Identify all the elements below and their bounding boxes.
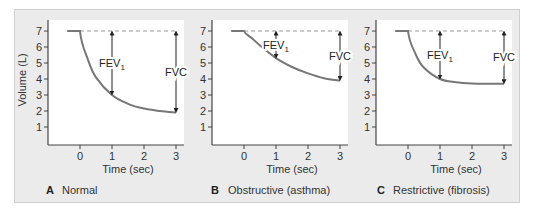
y-tick-label: 4 <box>364 73 370 85</box>
x-tick-label: 3 <box>173 150 179 162</box>
x-tick-label: 3 <box>501 150 507 162</box>
panel-c: 12345670123FEV1FVC Time (sec) C Restrict… <box>364 20 515 196</box>
y-tick-label: 3 <box>364 89 370 101</box>
x-tick-label: 2 <box>469 150 475 162</box>
y-tick-label: 6 <box>36 41 42 53</box>
y-tick-label: 2 <box>200 105 206 117</box>
panel-caption: Normal <box>62 184 97 196</box>
panel-b: 12345670123FEV1FVC Time (sec) B Obstruct… <box>200 20 351 196</box>
panel-letter: C <box>377 184 385 196</box>
y-axis-title: Volume (L) <box>16 53 28 106</box>
y-tick-label: 5 <box>200 57 206 69</box>
x-tick-label: 2 <box>305 150 311 162</box>
x-axis-title: Time (sec) <box>266 163 318 175</box>
x-tick-label: 1 <box>273 150 279 162</box>
y-tick-label: 6 <box>364 41 370 53</box>
panel-caption: Restrictive (fibrosis) <box>393 184 490 196</box>
x-tick-label: 0 <box>241 150 247 162</box>
y-tick-label: 4 <box>36 73 42 85</box>
y-tick-label: 1 <box>200 121 206 133</box>
y-tick-label: 1 <box>364 121 370 133</box>
x-tick-label: 0 <box>405 150 411 162</box>
plot-area <box>48 20 184 145</box>
panel-letter: A <box>46 184 54 196</box>
panel-caption: Obstructive (asthma) <box>228 184 330 196</box>
x-tick-label: 1 <box>437 150 443 162</box>
y-tick-label: 5 <box>36 57 42 69</box>
y-tick-label: 2 <box>36 105 42 117</box>
y-tick-label: 4 <box>200 73 206 85</box>
x-axis-title: Time (sec) <box>430 163 482 175</box>
y-tick-label: 6 <box>200 41 206 53</box>
y-tick-label: 7 <box>200 25 206 37</box>
y-tick-label: 1 <box>36 121 42 133</box>
y-tick-label: 3 <box>36 89 42 101</box>
x-tick-label: 3 <box>337 150 343 162</box>
fvc-label: FVC <box>493 51 515 63</box>
x-tick-label: 1 <box>109 150 115 162</box>
y-tick-label: 7 <box>364 25 370 37</box>
y-tick-label: 5 <box>364 57 370 69</box>
fvc-label: FVC <box>329 50 351 62</box>
panel-a: 12345670123FEV1FVC Volume (L) Time (sec)… <box>16 20 187 196</box>
y-tick-label: 7 <box>36 25 42 37</box>
plot-area <box>376 20 512 145</box>
y-tick-label: 2 <box>364 105 370 117</box>
fvc-label: FVC <box>165 66 187 78</box>
spirometry-figure: 12345670123FEV1FVC Volume (L) Time (sec)… <box>0 0 533 211</box>
x-tick-label: 2 <box>141 150 147 162</box>
x-tick-label: 0 <box>77 150 83 162</box>
panel-letter: B <box>211 184 219 196</box>
x-axis-title: Time (sec) <box>102 163 154 175</box>
y-tick-label: 3 <box>200 89 206 101</box>
